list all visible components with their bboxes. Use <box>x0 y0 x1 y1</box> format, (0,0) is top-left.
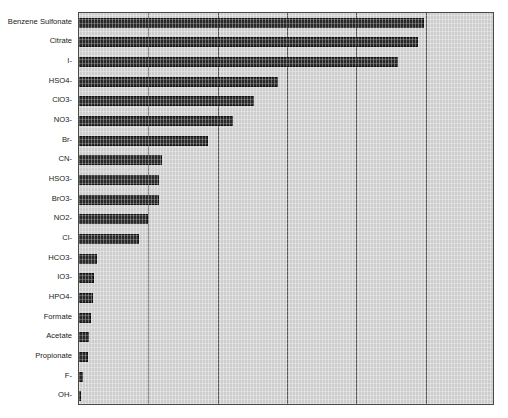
gridline-x-3 <box>287 13 288 404</box>
bar-row <box>79 37 494 47</box>
category-label-io3: IO3- <box>57 272 72 282</box>
bar-row <box>79 313 494 323</box>
gridline-x-4 <box>356 13 357 404</box>
bar-br <box>79 136 208 146</box>
bar-hso4 <box>79 77 278 87</box>
category-label-clo3: ClO3- <box>52 95 72 105</box>
bar-row <box>79 332 494 342</box>
category-label-i: I- <box>67 56 72 66</box>
category-label-citrate: Citrate <box>50 36 72 46</box>
category-label-propionate: Propionate <box>35 351 72 361</box>
bar-propionate <box>79 352 88 362</box>
bar-cl <box>79 234 139 244</box>
bar-row <box>79 195 494 205</box>
category-label-formate: Formate <box>44 312 72 322</box>
bar-citrate <box>79 37 418 47</box>
bar-row <box>79 175 494 185</box>
bar-row <box>79 116 494 126</box>
bar-acetate <box>79 332 89 342</box>
bar-row <box>79 57 494 67</box>
category-label-hco3: HCO3- <box>48 253 72 263</box>
bar-row <box>79 352 494 362</box>
plot-area <box>78 12 494 405</box>
gridline-x-5 <box>426 13 427 404</box>
category-label-hpo4: HPO4- <box>49 292 72 302</box>
bar-no3 <box>79 116 233 126</box>
bar-row <box>79 391 494 401</box>
bar-row <box>79 77 494 87</box>
gridline-x-1 <box>148 13 149 404</box>
category-label-hso4: HSO4- <box>49 76 72 86</box>
bar-row <box>79 155 494 165</box>
category-label-br: Br- <box>62 135 72 145</box>
bar-hso3 <box>79 175 159 185</box>
bar-row <box>79 254 494 264</box>
category-label-f: F- <box>65 371 72 381</box>
bar-cn <box>79 155 162 165</box>
bar-formate <box>79 313 91 323</box>
bar-row <box>79 293 494 303</box>
category-axis-labels: Benzene SulfonateCitrateI-HSO4-ClO3-NO3-… <box>0 0 75 418</box>
bar-oh <box>79 391 81 401</box>
bar-row <box>79 234 494 244</box>
bar-f <box>79 372 83 382</box>
bar-row <box>79 96 494 106</box>
bar-benzene-sulfonate <box>79 18 424 28</box>
category-label-hso3: HSO3- <box>49 174 72 184</box>
bar-hpo4 <box>79 293 93 303</box>
category-label-bro3: BrO3- <box>52 194 72 204</box>
bar-hco3 <box>79 254 97 264</box>
bar-bro3 <box>79 195 159 205</box>
category-label-acetate: Acetate <box>46 331 72 341</box>
bar-row <box>79 136 494 146</box>
bar-chart-figure: Benzene SulfonateCitrateI-HSO4-ClO3-NO3-… <box>0 0 508 418</box>
gridline-x-2 <box>218 13 219 404</box>
bar-no2 <box>79 214 148 224</box>
bar-row <box>79 372 494 382</box>
category-label-cl: Cl- <box>62 233 72 243</box>
bar-row <box>79 214 494 224</box>
category-label-no3: NO3- <box>54 115 72 125</box>
bar-clo3 <box>79 96 254 106</box>
category-label-no2: NO2- <box>54 213 72 223</box>
bar-io3 <box>79 273 94 283</box>
category-label-oh: OH- <box>58 390 72 400</box>
bar-row <box>79 273 494 283</box>
category-label-benzene-sulfonate: Benzene Sulfonate <box>8 17 72 27</box>
bar-row <box>79 18 494 28</box>
bar-i <box>79 57 398 67</box>
category-label-cn: CN- <box>59 154 73 164</box>
